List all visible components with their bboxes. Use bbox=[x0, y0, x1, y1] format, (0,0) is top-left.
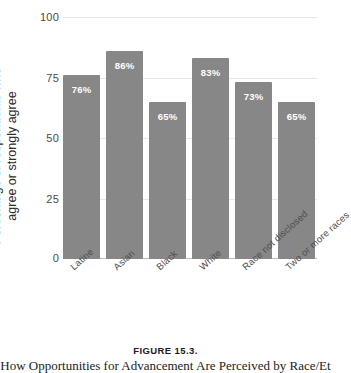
bar-series: 76% 86% 65% 83% 73% 65% bbox=[63, 17, 317, 259]
y-tick-label-100: 100 bbox=[33, 12, 59, 23]
bar-value-asian: 86% bbox=[106, 60, 143, 71]
bar-slot-black: 65% bbox=[149, 17, 186, 259]
bar-black[interactable]: 65% bbox=[149, 102, 186, 259]
bar-value-black: 65% bbox=[149, 111, 186, 122]
bar-value-two-or-more-races: 65% bbox=[278, 111, 315, 122]
bar-value-race-not-disclosed: 73% bbox=[235, 91, 272, 102]
y-axis-title: Percentage of respondents who agree or s… bbox=[0, 48, 20, 264]
bar-value-white: 83% bbox=[192, 67, 229, 78]
y-tick-label-0: 0 bbox=[33, 253, 59, 264]
y-tick-label-25: 25 bbox=[33, 194, 59, 205]
bar-slot-latine: 76% bbox=[63, 17, 100, 259]
bar-latine[interactable]: 76% bbox=[63, 75, 100, 259]
bar-slot-white: 83% bbox=[192, 17, 229, 259]
y-tick-label-75: 75 bbox=[33, 73, 59, 84]
bar-asian[interactable]: 86% bbox=[106, 51, 143, 259]
bar-slot-race-not-disclosed: 73% bbox=[235, 17, 272, 259]
bar-white[interactable]: 83% bbox=[192, 58, 229, 259]
figure-number: FIGURE 15.3. bbox=[0, 345, 331, 356]
bar-race-not-disclosed[interactable]: 73% bbox=[235, 82, 272, 259]
bar-value-latine: 76% bbox=[63, 84, 100, 95]
bar-slot-asian: 86% bbox=[106, 17, 143, 259]
figure-caption: How Opportunities for Advancement Are Pe… bbox=[0, 358, 331, 373]
y-axis-title-line-2: agree or strongly agree bbox=[4, 48, 20, 264]
y-tick-label-50: 50 bbox=[33, 133, 59, 144]
